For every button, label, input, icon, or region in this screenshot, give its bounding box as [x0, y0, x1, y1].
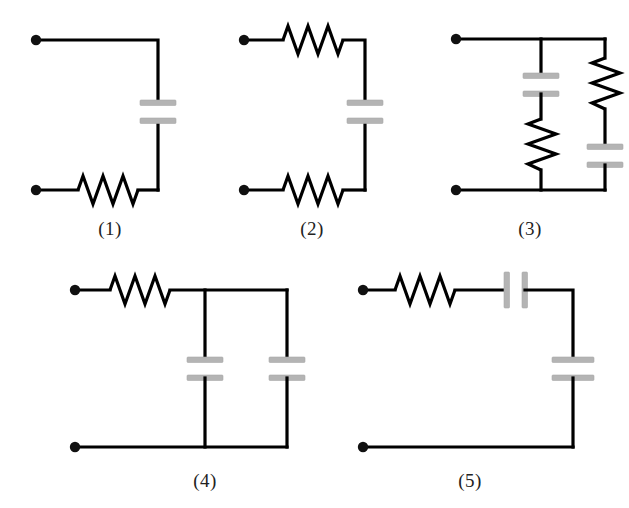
circuit-2-input-terminal-dot [239, 35, 249, 45]
circuit-3-group [451, 34, 623, 195]
circuit-3-right-branch-resistor [592, 58, 620, 109]
circuit-3-left-capacitor-plate-top [523, 73, 559, 79]
circuit-2-bottom-resistor [283, 176, 343, 204]
circuit-2-label: (2) [300, 218, 324, 240]
circuit-2-capacitor-plate-top [347, 100, 383, 106]
circuit-5-top-wire-right [525, 290, 573, 360]
circuit-3-output-terminal-dot [451, 185, 461, 195]
circuit-2-group [239, 26, 383, 204]
circuit-5-label: (5) [458, 470, 482, 492]
circuit-figure: (1) (2) (3) (4) (5) [0, 0, 629, 508]
circuit-1-label: (1) [98, 218, 122, 240]
circuit-diagram-canvas [0, 0, 629, 508]
circuit-1-output-terminal-dot [31, 185, 41, 195]
circuit-1-top-wire [35, 40, 158, 103]
circuit-3-right-capacitor-plate-top [587, 144, 623, 150]
circuit-1-resistor [78, 176, 138, 204]
circuit-2-capacitor-plate-bottom [347, 118, 383, 124]
circuit-1-input-terminal-dot [31, 35, 41, 45]
circuit-5-series-resistor [395, 276, 455, 304]
circuit-4-capacitor2-plate-top [269, 357, 305, 363]
circuit-5-output-terminal-dot [358, 442, 368, 452]
circuit-4-series-resistor [110, 276, 170, 304]
circuit-5-series-capacitor-plate-left [504, 272, 510, 308]
circuit-2-top-resistor [283, 26, 343, 54]
circuit-5-input-terminal-dot [358, 285, 368, 295]
circuit-3-input-terminal-dot [451, 34, 461, 44]
circuit-4-output-terminal-dot [70, 442, 80, 452]
circuit-4-input-terminal-dot [70, 285, 80, 295]
circuit-4-group [70, 276, 305, 452]
circuit-3-label: (3) [518, 218, 542, 240]
circuit-2-output-terminal-dot [239, 185, 249, 195]
circuit-4-capacitor1-plate-top [187, 357, 223, 363]
circuit-5-shunt-capacitor-plate-top [552, 357, 594, 363]
circuit-1-capacitor-plate-top [140, 100, 176, 106]
circuit-1-capacitor-plate-bottom [140, 118, 176, 124]
circuit-1-group [31, 35, 176, 204]
circuit-2-top-wire-right [343, 40, 365, 103]
circuit-5-group [358, 272, 594, 452]
circuit-4-label: (4) [193, 470, 217, 492]
circuit-3-left-branch-resistor [528, 119, 556, 170]
